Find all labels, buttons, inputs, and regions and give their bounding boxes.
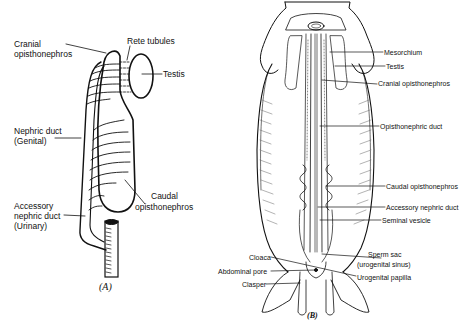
label-nephric-duct-line2: (Genital) xyxy=(14,136,47,146)
label-caudal-opisthonephros-line1: Caudal xyxy=(151,191,178,201)
panel-a-tag: (A) xyxy=(99,281,112,292)
label-caudal-opisthonephros-b: Caudal opisthonephros xyxy=(386,182,458,191)
panel-b-tag: (B) xyxy=(307,311,318,320)
label-seminal-vesicle: Seminal vesicle xyxy=(382,216,431,225)
label-testis-b: Testis xyxy=(386,62,404,71)
label-sperm-sac-line2: (urogenital sinus) xyxy=(357,260,411,269)
label-opisthonephric-duct: Opisthonephric duct xyxy=(380,122,442,131)
label-accessory-duct-line2: nephric duct xyxy=(14,211,60,221)
label-mesorchium: Mesorchium xyxy=(384,48,422,57)
label-rete-tubules: Rete tubules xyxy=(127,36,175,46)
label-urogenital-papilla: Urogenital papilla xyxy=(357,273,411,282)
label-cranial-opisthonephros-b: Cranial opisthonephros xyxy=(378,79,450,88)
label-clasper: Clasper xyxy=(242,280,266,289)
label-accessory-duct-line3: (Urinary) xyxy=(14,221,47,231)
label-accessory-duct-line1: Accessory xyxy=(14,201,53,211)
label-caudal-opisthonephros-line2: opisthonephros xyxy=(135,202,193,212)
label-abdominal-pore: Abdominal pore xyxy=(218,267,267,276)
label-nephric-duct-line1: Nephric duct xyxy=(14,126,62,136)
label-testis-a: Testis xyxy=(163,69,185,79)
label-cranial-opisthonephros-line1: Cranial xyxy=(14,39,41,49)
label-cloaca: Cloaca xyxy=(249,253,271,262)
label-sperm-sac-line1: Sperm sac xyxy=(368,250,401,259)
label-accessory-nephric-duct: Accessory nephric duct xyxy=(386,203,458,212)
label-cranial-opisthonephros-line2: opisthonephros xyxy=(14,49,72,59)
panel-a-drawing xyxy=(55,44,162,277)
